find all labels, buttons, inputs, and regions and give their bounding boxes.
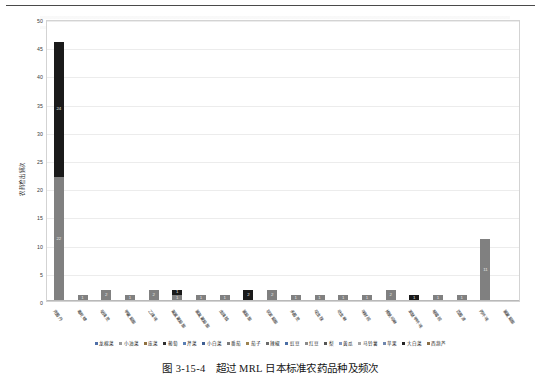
legend-label: 大白菜 [407,340,422,346]
y-axis-tick-label: 10 [37,244,43,250]
legend-item[interactable]: 庞菜 [144,340,159,346]
legend-label: 小白菜 [207,340,222,346]
legend-label: 葡萄 [168,340,178,346]
y-axis-tick-label: 15 [37,215,43,221]
bar-segment: 24 [54,42,64,177]
bar-segment: 22 [54,177,64,301]
legend-swatch-icon [324,342,327,345]
legend-item[interactable]: 芹菜 [183,340,198,346]
x-axis-tick-label: 虫螨腈 [218,308,230,322]
legend-item[interactable]: 马铃薯 [358,340,378,346]
legend-item[interactable]: 葡萄 [163,340,178,346]
x-axis-tick-label: 百菌清 [455,308,467,322]
legend-swatch-icon [383,342,386,345]
legend-label: 芹菜 [187,340,197,346]
x-axis-tick-label: 联苯菊酯 [265,308,280,325]
y-axis-tick-label: 5 [40,272,43,278]
x-axis-tick-label: 哒螨灵 [99,308,111,322]
x-axis-line [47,300,519,301]
x-axis-tick-label: 苯醚甲环唑 [407,308,424,329]
y-axis-tick-label: 45 [37,46,43,52]
legend-swatch-icon [246,342,249,345]
legend-item[interactable]: 茄子 [246,340,261,346]
bar-column[interactable]: 11 [480,239,490,301]
bar-column[interactable]: 2224 [54,42,64,301]
legend-label: 红豆 [309,340,319,346]
legend-label: 西葫芦 [431,340,446,346]
legend-item[interactable]: 龙棉菜 [95,340,115,346]
legend-swatch-icon [144,342,147,345]
x-axis-tick-label: 吡虫啉 [336,308,348,322]
legend-swatch-icon [427,342,430,345]
legend-item[interactable]: 黄瓜 [339,340,354,346]
figure-caption: 图 3-15-4超过 MRL 日本标准农药品种及频次 [0,360,541,375]
plot-area: 05101520253035404550 2224121211112211112… [46,20,520,302]
legend-swatch-icon [227,342,230,345]
legend-swatch-icon [202,342,205,345]
bar-series-group: 222412121111221111211111 [47,21,519,301]
legend-swatch-icon [95,342,98,345]
legend-swatch-icon [119,342,122,345]
bar-segment: 11 [480,239,490,301]
legend-item[interactable]: 小油菜 [119,340,139,346]
legend-swatch-icon [402,342,405,345]
y-axis-tick-label: 20 [37,187,43,193]
y-axis-tick-label: 40 [37,74,43,80]
legend-swatch-icon [285,342,288,345]
figure-title: 超过 MRL 日本标准农药品种及频次 [216,363,379,374]
legend-item[interactable]: 梨 [324,340,334,346]
legend-item[interactable]: 辣椒 [266,340,281,346]
figure-number: 图 3-15-4 [162,363,205,374]
x-axis-tick-label: 氯氟氰菊酯 [194,308,211,329]
x-axis-tick-label: 啶虫脒 [313,308,325,322]
x-axis-tick-label: 氯氰菊酯 [502,308,517,325]
legend-swatch-icon [305,342,308,345]
legend-label: 庞菜 [148,340,158,346]
x-axis-tick-label: 多菌灵 [289,308,301,322]
y-axis-tick-label: 25 [37,159,43,165]
legend-item[interactable]: 小白菜 [202,340,222,346]
legend-swatch-icon [266,342,269,345]
y-axis-title: 农药检出频次 [18,162,26,196]
x-axis-tick-label: 氯菊酯 [242,308,254,322]
legend-swatch-icon [163,342,166,345]
legend-label: 黄瓜 [343,340,353,346]
legend-item[interactable]: 番茄 [227,340,242,346]
x-axis-tick-label: 丙环唑 [479,308,491,322]
legend-label: 龙棉菜 [99,340,114,346]
x-axis-tick-label: 嘧霉胺 [431,308,443,322]
legend-swatch-icon [339,342,342,345]
x-axis-tick-label: 氟氯氰菊酯 [170,308,187,329]
legend-label: 马铃薯 [363,340,378,346]
legend-item[interactable]: 红豆 [305,340,320,346]
x-axis-tick-label: 咪鲜胺 [360,308,372,322]
legend-item[interactable]: 苹果 [383,340,398,346]
legend-label: 苹果 [387,340,397,346]
figure-page: 农药检出频次 05101520253035404550 222412121111… [0,0,541,382]
x-axis-tick-label: 毒死蜱 [76,308,88,322]
chart-container: 农药检出频次 05101520253035404550 222412121111… [0,14,541,344]
legend-label: 小油菜 [124,340,139,346]
legend-swatch-icon [358,342,361,345]
y-axis-tick-label: 50 [37,18,43,24]
legend-label: 梨 [329,340,334,346]
x-axis-tick-label: 甲氰菊酯 [123,308,138,325]
legend-label: 茄子 [251,340,261,346]
legend-label: 豇豆 [290,340,300,346]
chart-legend: 龙棉菜小油菜庞菜葡萄芹菜小白菜番茄茄子辣椒豇豆红豆梨黄瓜马铃薯苹果大白菜西葫芦 [0,340,541,346]
top-divider-rule [6,5,535,6]
legend-label: 番茄 [231,340,241,346]
legend-item[interactable]: 大白菜 [402,340,422,346]
legend-item[interactable]: 西葫芦 [427,340,447,346]
x-axis-tick-label: 克菌丹 [52,308,64,322]
y-axis-tick-label: 30 [37,131,43,137]
y-axis-tick-label: 0 [40,300,43,306]
y-axis-tick-label: 35 [37,103,43,109]
x-axis-tick-label: 乙螨唑 [147,308,159,322]
legend-swatch-icon [183,342,186,345]
legend-item[interactable]: 豇豆 [285,340,300,346]
legend-label: 辣椒 [270,340,280,346]
x-axis-tick-label: 烯酰吗啉 [384,308,399,325]
